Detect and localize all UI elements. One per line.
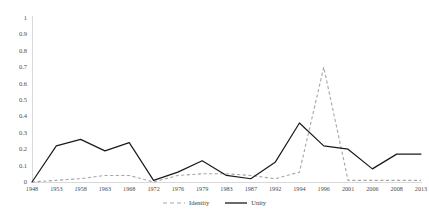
x-tick-label: 1968	[123, 186, 135, 192]
legend-item-identity: Identity	[163, 200, 209, 207]
x-tick-label: 1953	[50, 186, 62, 192]
x-tick-label: 1996	[318, 186, 330, 192]
legend-item-unity: Unity	[225, 200, 266, 207]
x-tick-label: 1979	[196, 186, 208, 192]
x-tick-label: 1992	[269, 186, 281, 192]
x-tick-label: 1972	[147, 186, 159, 192]
x-tick-label: 1987	[245, 186, 257, 192]
legend-label-identity: Identity	[189, 200, 209, 207]
x-tick-label: 2013	[415, 186, 427, 192]
line-chart: 10.90.80.70.60.50.40.30.20.10 1948195319…	[0, 0, 429, 215]
x-tick-label: 1976	[172, 186, 184, 192]
x-tick-label: 1958	[74, 186, 86, 192]
legend-label-unity: Unity	[251, 200, 266, 207]
x-tick-label: 2001	[342, 186, 354, 192]
x-tick-label: 1983	[220, 186, 232, 192]
series-line-unity	[32, 123, 421, 182]
x-tick-label: 2008	[391, 186, 403, 192]
dashed-line-swatch-icon	[163, 200, 185, 206]
series-line-identity	[32, 67, 421, 182]
series-layer	[0, 0, 429, 215]
x-tick-label: 1963	[99, 186, 111, 192]
chart-legend: Identity Unity	[0, 196, 429, 210]
x-tick-label: 1948	[26, 186, 38, 192]
solid-line-swatch-icon	[225, 200, 247, 206]
x-tick-label: 1994	[293, 186, 305, 192]
x-tick-label: 2006	[366, 186, 378, 192]
